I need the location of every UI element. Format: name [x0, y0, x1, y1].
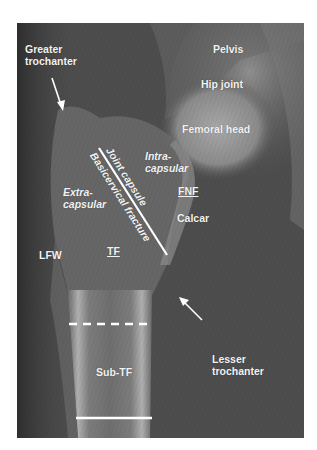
intra-capsular-label: Intra- capsular [145, 150, 188, 174]
radiograph-figure: Greater trochanter Pelvis Hip joint Femo… [17, 23, 304, 438]
greater-trochanter-line2: trochanter [25, 55, 77, 67]
extra-capsular-line1: Extra- [63, 186, 106, 198]
hip-joint-label: Hip joint [201, 78, 243, 90]
lesser-trochanter-label: Lesser trochanter [212, 353, 264, 377]
sub-tf-label: Sub-TF [96, 366, 132, 378]
intra-capsular-line1: Intra- [145, 150, 188, 162]
extra-capsular-line2: capsular [63, 198, 106, 210]
greater-trochanter-line1: Greater [25, 43, 77, 55]
pelvis-label: Pelvis [213, 43, 243, 55]
calcar-label: Calcar [177, 212, 209, 224]
lfw-label: LFW [39, 249, 62, 261]
tf-label: TF [107, 245, 120, 257]
lesser-trochanter-line1: Lesser [212, 353, 264, 365]
greater-trochanter-label: Greater trochanter [25, 43, 77, 67]
intra-capsular-line2: capsular [145, 162, 188, 174]
lesser-trochanter-line2: trochanter [212, 365, 264, 377]
fnf-label: FNF [178, 185, 198, 197]
femoral-head-label: Femoral head [182, 123, 250, 135]
extra-capsular-label: Extra- capsular [63, 186, 106, 210]
